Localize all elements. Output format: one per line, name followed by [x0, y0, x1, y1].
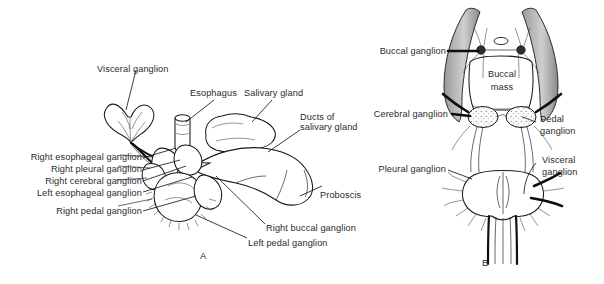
label-left-esophageal-ganglion: Left esophageal ganglion: [0, 188, 142, 199]
right-cerebral-ganglion-shape: [506, 107, 536, 128]
label-salivary-gland: Salivary gland: [244, 88, 303, 99]
label-visceral-ganglion: Visceral ganglion: [97, 64, 169, 75]
label-right-cerebral-ganglion: Right cerebral ganglion: [0, 176, 142, 187]
label-right-buccal-ganglion: Right buccal ganglion: [266, 223, 356, 234]
panel-b-id: B: [482, 257, 488, 268]
leader-pleural-ganglion: [448, 170, 472, 179]
salivary-gland-shape: [206, 114, 276, 152]
label-proboscis: Proboscis: [320, 190, 361, 201]
leader-esophagus: [186, 100, 214, 122]
median-oval-shape: [494, 37, 508, 44]
label-right-pedal-ganglion: Right pedal ganglion: [0, 206, 142, 217]
label-right-esophageal-ganglion: Right esophageal ganglion: [0, 152, 142, 163]
label-buccal-mass-line2: mass: [478, 82, 526, 93]
label-visceral-ganglion-b-line1: Visceral: [542, 155, 575, 166]
label-ducts-of-salivary-gland-line2: salivary gland: [300, 122, 358, 133]
label-pleural-ganglion: Pleural ganglion: [366, 164, 446, 175]
label-visceral-ganglion-b-line2: ganglion: [542, 167, 578, 178]
label-left-pedal-ganglion: Left pedal ganglion: [248, 238, 328, 249]
figure-canvas: Visceral ganglion Esophagus Salivary gla…: [0, 0, 604, 284]
label-pedal-ganglion-line2: ganglion: [540, 126, 576, 137]
leader-salivary-gland: [252, 100, 272, 122]
label-pedal-ganglion-line1: Pedal: [540, 114, 564, 125]
label-cerebral-ganglion: Cerebral ganglion: [360, 109, 448, 120]
leader-visceral-ganglion: [126, 70, 136, 110]
left-cerebral-ganglion-shape: [468, 107, 498, 128]
label-ducts-of-salivary-gland-line1: Ducts of: [300, 112, 335, 123]
label-buccal-mass-line1: Buccal: [478, 69, 526, 80]
right-buccal-ganglion-node: [517, 46, 525, 54]
panel-a-id: A: [200, 250, 206, 261]
leader-left-pedal-ganglion: [196, 215, 247, 238]
label-right-pleural-ganglion: Right pleural ganglion: [0, 164, 142, 175]
label-esophagus: Esophagus: [190, 88, 237, 99]
label-buccal-ganglion: Buccal ganglion: [366, 46, 446, 57]
visceral-ganglion-shape: [104, 104, 154, 143]
